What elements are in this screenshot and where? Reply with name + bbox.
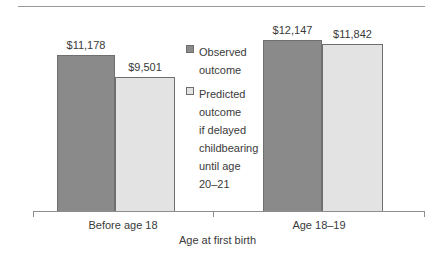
legend-entry-observed: Observed outcome [186,42,264,78]
x-axis-tick-start [33,212,34,217]
legend-label-predicted: Predicted outcome if delayed childbearin… [199,88,258,190]
x-axis-line [33,211,425,212]
chart-legend: Observed outcome Predicted outcome if de… [186,42,264,198]
x-axis-tick-end [424,212,425,217]
bar-before-age-18-observed [57,55,115,212]
x-axis-category-label-before-age-18: Before age 18 [33,219,213,231]
bar-chart: $11,178 $9,501 $12,147 $11,842 Observed … [0,0,435,253]
bar-before-age-18-predicted [115,77,175,212]
legend-entry-predicted: Predicted outcome if delayed childbearin… [186,84,264,192]
bar-value-label-before-age-18-predicted: $9,501 [115,61,175,73]
legend-label-observed: Observed outcome [199,46,247,76]
x-axis-category-label-age-18-19: Age 18–19 [213,219,425,231]
bar-value-label-before-age-18-observed: $11,178 [57,39,115,51]
legend-swatch-predicted-icon [186,87,194,95]
x-axis-title: Age at first birth [0,234,435,246]
bar-value-label-age-18-19-observed: $12,147 [263,24,322,36]
bar-value-label-age-18-19-predicted: $11,842 [322,28,383,40]
bar-age-18-19-predicted [322,44,383,212]
legend-swatch-observed-icon [186,45,194,53]
bar-age-18-19-observed [263,40,322,212]
x-axis-tick-middle [213,212,214,217]
